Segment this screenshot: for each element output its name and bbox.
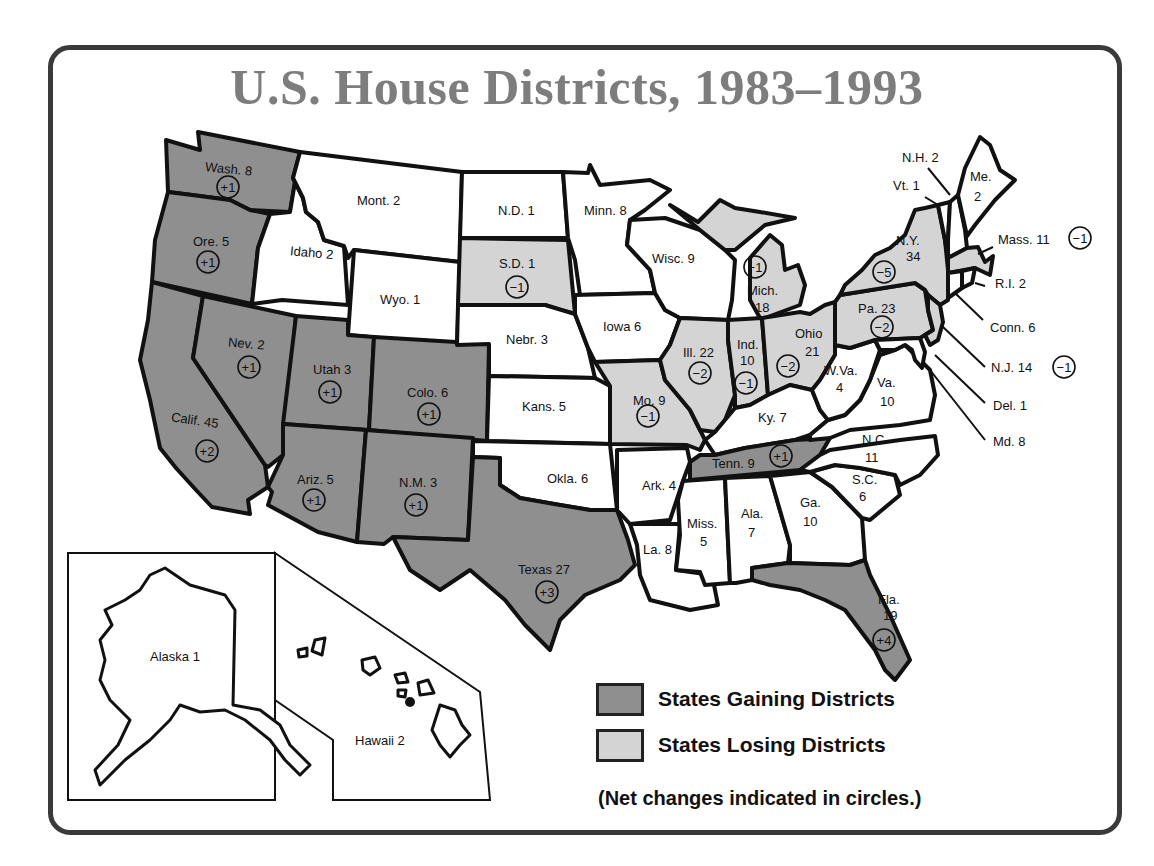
- legend: States Gaining Districts States Losing D…: [596, 676, 895, 768]
- label-alaska: Alaska 1: [150, 649, 200, 664]
- state-maine: [958, 137, 1015, 236]
- label-va-2: 10: [880, 394, 894, 409]
- label-ga-1: Ga.: [800, 495, 821, 510]
- label-mass: Mass. 11: [998, 232, 1050, 247]
- label-texas: Texas 27: [518, 562, 570, 577]
- state-mississippi: [676, 478, 730, 585]
- change-calif: +2: [200, 444, 215, 459]
- label-mich-2: 18: [755, 300, 769, 315]
- legend-gain-label: States Gaining Districts: [658, 687, 895, 711]
- label-nd: N.D. 1: [498, 203, 535, 218]
- label-conn: Conn. 6: [990, 320, 1036, 335]
- legend-gain: States Gaining Districts: [596, 676, 895, 722]
- label-minn: Minn. 8: [584, 203, 627, 218]
- label-me-1: Me.: [970, 169, 992, 184]
- label-del: Del. 1: [993, 398, 1027, 413]
- label-nh: N.H. 2: [902, 150, 939, 165]
- label-ore: Ore. 5: [193, 234, 229, 249]
- change-mass: −1: [1073, 231, 1088, 246]
- label-ala-2: 7: [748, 525, 755, 540]
- label-ny-2: 34: [906, 249, 920, 264]
- change-ind: −1: [739, 376, 754, 391]
- label-hawaii: Hawaii 2: [355, 733, 405, 748]
- legend-lose-label: States Losing Districts: [658, 733, 886, 757]
- label-wisc: Wisc. 9: [652, 251, 695, 266]
- legend-lose: States Losing Districts: [596, 722, 895, 768]
- change-ariz: +1: [307, 493, 322, 508]
- change-ill: −2: [693, 366, 708, 381]
- label-ri: R.I. 2: [995, 276, 1026, 291]
- label-ala-1: Ala.: [741, 506, 763, 521]
- change-pa: −2: [875, 320, 890, 335]
- label-md: Md. 8: [993, 434, 1026, 449]
- label-sd: S.D. 1: [499, 256, 535, 271]
- change-nev: +1: [242, 360, 257, 375]
- label-nj: N.J. 14: [991, 360, 1032, 375]
- label-utah: Utah 3: [313, 362, 351, 377]
- label-me-2: 2: [974, 189, 981, 204]
- label-ind-1: Ind.: [737, 337, 759, 352]
- change-mich: −1: [748, 260, 763, 275]
- label-miss-1: Miss.: [687, 516, 717, 531]
- label-okla: Okla. 6: [547, 471, 588, 486]
- label-colo: Colo. 6: [407, 385, 448, 400]
- label-mont: Mont. 2: [357, 193, 400, 208]
- label-ohio-1: Ohio: [795, 326, 822, 341]
- label-ga-2: 10: [803, 514, 817, 529]
- change-fla: +4: [877, 633, 892, 648]
- state-rhode-island: [962, 268, 975, 288]
- lose-swatch: [596, 729, 644, 762]
- label-ark: Ark. 4: [642, 478, 676, 493]
- label-ariz: Ariz. 5: [297, 472, 334, 487]
- label-sc-2: 6: [859, 489, 866, 504]
- change-mo: −1: [641, 409, 656, 424]
- label-ky: Ky. 7: [758, 410, 787, 425]
- label-tenn: Tenn. 9: [712, 456, 755, 471]
- change-texas: +3: [540, 585, 555, 600]
- label-va-1: Va.: [877, 375, 896, 390]
- label-ind-2: 10: [740, 353, 754, 368]
- label-ohio-2: 21: [805, 344, 819, 359]
- change-nj: −1: [1057, 360, 1072, 375]
- label-fla-2: 19: [883, 608, 897, 623]
- change-nm: +1: [409, 498, 424, 513]
- change-colo: +1: [422, 407, 437, 422]
- change-ohio: −2: [781, 359, 796, 374]
- us-map: Wash. 8 +1 Ore. 5 +1 Idaho 2 Mont. 2 Wyo…: [0, 0, 1154, 866]
- label-vt: Vt. 1: [893, 178, 920, 193]
- label-miss-2: 5: [700, 534, 707, 549]
- label-sc-1: S.C.: [852, 472, 877, 487]
- label-wva-1: W.Va.: [824, 363, 858, 378]
- legend-note: (Net changes indicated in circles.): [598, 787, 921, 810]
- label-fla-1: Fla.: [878, 592, 900, 607]
- change-tenn: +1: [774, 449, 789, 464]
- change-ore: +1: [201, 255, 216, 270]
- label-nm: N.M. 3: [399, 475, 437, 490]
- label-kans: Kans. 5: [522, 399, 566, 414]
- label-iowa: Iowa 6: [603, 319, 641, 334]
- label-nev: Nev. 2: [227, 335, 265, 353]
- label-nebr: Nebr. 3: [506, 332, 548, 347]
- label-ill: Ill. 22: [683, 345, 714, 360]
- change-utah: +1: [323, 385, 338, 400]
- label-wyo: Wyo. 1: [380, 292, 420, 307]
- label-wva-2: 4: [836, 380, 843, 395]
- change-wash: +1: [221, 180, 236, 195]
- change-ny: −5: [877, 265, 892, 280]
- label-la: La. 8: [643, 542, 672, 557]
- label-pa: Pa. 23: [858, 301, 896, 316]
- gain-swatch: [596, 683, 644, 716]
- label-nc-1: N.C.: [862, 432, 888, 447]
- label-mich-1: Mich.: [747, 283, 778, 298]
- label-nc-2: 11: [865, 450, 879, 465]
- change-sd: −1: [510, 280, 525, 295]
- label-ny-1: N.Y.: [896, 233, 920, 248]
